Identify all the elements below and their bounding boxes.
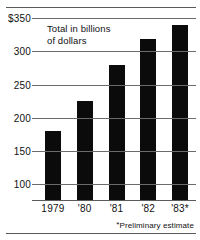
y-tick	[32, 85, 37, 86]
gridline	[37, 184, 196, 185]
x-axis-line	[32, 200, 196, 201]
y-tick-label: 300	[14, 46, 31, 57]
gridline	[37, 51, 196, 52]
gridline	[37, 18, 196, 19]
footnote-text: Preliminary estimate	[120, 221, 194, 230]
y-tick	[32, 151, 37, 152]
y-tick-label: 250	[14, 79, 31, 90]
gridline	[37, 151, 196, 152]
gridline	[37, 118, 196, 119]
bottom-divider-rule	[6, 233, 196, 234]
y-tick-label: 100	[14, 179, 31, 190]
y-tick-label: 150	[14, 146, 31, 157]
bar	[45, 131, 61, 201]
x-tick-label: '82	[141, 203, 155, 214]
y-tick	[32, 184, 37, 185]
footnote: *Preliminary estimate	[116, 220, 194, 230]
y-tick-label: 200	[14, 112, 31, 123]
y-tick	[32, 118, 37, 119]
y-tick	[32, 18, 37, 19]
y-tick	[32, 51, 37, 52]
top-divider-rule	[6, 7, 196, 8]
chart-figure: 100150200250300$350 Total in billions of…	[0, 0, 200, 240]
y-axis-label: Total in billions of dollars	[47, 23, 110, 47]
x-tick-label: '80	[78, 203, 92, 214]
x-tick-label: '83*	[171, 203, 189, 214]
x-tick-label: 1979	[41, 203, 64, 214]
x-tick-label: '81	[110, 203, 124, 214]
gridline	[37, 85, 196, 86]
bar	[140, 39, 156, 201]
y-tick-label: $350	[8, 13, 31, 24]
